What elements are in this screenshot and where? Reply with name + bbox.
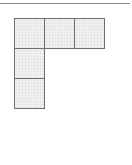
square-cell-r1-c0 [14,48,45,79]
square-cell-r2-c0 [14,78,45,109]
top-divider-line [0,3,130,4]
square-cell-r0-c0 [14,18,45,49]
square-cell-r0-c2 [74,18,105,49]
square-cell-r0-c1 [44,18,75,49]
